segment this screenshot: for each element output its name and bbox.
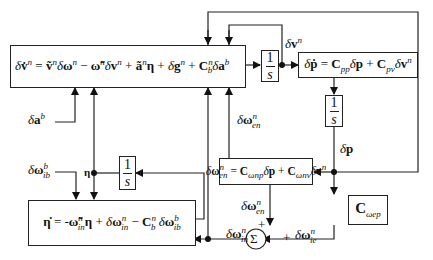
earth-rate-label: Cωep <box>355 201 381 219</box>
label-dwin: δωnin <box>226 226 248 244</box>
position-error-equation: δṗ = Cppδp + Cpvδvn <box>304 56 412 74</box>
label-dwen-top: δωnen <box>237 112 261 130</box>
label-plus-top: + <box>258 218 265 231</box>
label-dwen-bottom: δωnen <box>241 198 265 216</box>
integrator-position: 1s <box>325 95 343 127</box>
label-dwie: δωnie <box>295 227 317 245</box>
integrator-attitude: 1s <box>119 156 136 190</box>
transport-rate-block: δωnen = Cωnpδp + Cωnvδvn <box>219 158 313 185</box>
integrator-velocity: 1s <box>261 50 279 82</box>
attitude-error-block: η̇ = -ω̃ninη + δωnin − Cnb δωbib <box>28 200 196 246</box>
label-dp: δp <box>340 142 353 155</box>
label-dv: δvn <box>285 36 302 50</box>
label-dab: δab <box>28 112 45 126</box>
attitude-error-equation: η̇ = -ω̃ninη + δωnin − Cnb δωbib <box>43 214 180 232</box>
position-error-block: δṗ = Cppδp + Cpvδvn <box>298 52 418 78</box>
label-dwib: δωbib <box>28 162 50 180</box>
label-plus-right: + <box>283 231 290 244</box>
label-eta: η <box>84 167 90 178</box>
earth-rate-block: Cωep <box>348 195 388 225</box>
inertial-navigation-error-block-diagram: δv̇n = ṽnδωn − ω̃nδvn + ãnη + δgn + Cnbδ… <box>0 0 433 260</box>
velocity-error-block: δv̇n = ṽnδωn − ω̃nδvn + ãnη + δgn + Cnbδ… <box>10 45 246 88</box>
velocity-error-equation: δv̇n = ṽnδωn − ω̃nδvn + ãnη + δgn + Cnbδ… <box>15 58 229 76</box>
sum-symbol: Σ <box>250 232 258 245</box>
transport-rate-equation: δωnen = Cωnpδp + Cωnvδvn <box>206 163 326 180</box>
